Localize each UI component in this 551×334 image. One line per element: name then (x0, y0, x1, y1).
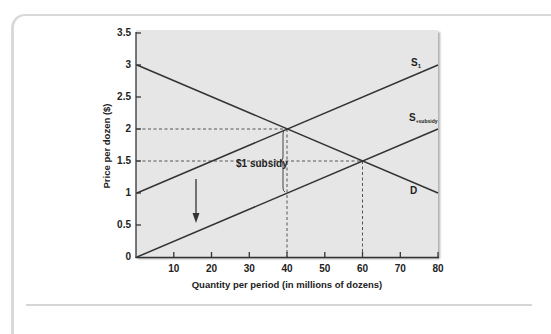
y-tick-2: 2 (125, 123, 131, 134)
x-tick-50: 50 (319, 263, 331, 274)
y-tick-labels: 0 0.5 1 1.5 2 2.5 3 3.5 (117, 27, 131, 262)
label-demand: D (410, 185, 417, 196)
y-tick-0-5: 0.5 (117, 219, 131, 230)
x-axis-title: Quantity per period (in millions of doze… (192, 279, 383, 290)
x-tick-40: 40 (281, 263, 293, 274)
x-tick-80: 80 (432, 263, 444, 274)
y-tick-3-5: 3.5 (117, 27, 131, 38)
label-subsidy: $1 subsidy (236, 158, 288, 169)
x-tick-60: 60 (357, 263, 369, 274)
x-tick-labels: 10 20 30 40 50 60 70 80 (168, 263, 444, 274)
y-tick-3: 3 (125, 59, 131, 70)
y-tick-1-5: 1.5 (117, 155, 131, 166)
y-axis-title: Price per dozen ($) (101, 104, 112, 189)
x-tick-30: 30 (244, 263, 256, 274)
y-tick-1: 1 (125, 187, 131, 198)
x-tick-20: 20 (206, 263, 218, 274)
y-tick-0: 0 (125, 251, 131, 262)
x-tick-10: 10 (168, 263, 180, 274)
x-tick-70: 70 (395, 263, 407, 274)
y-tick-2-5: 2.5 (117, 91, 131, 102)
